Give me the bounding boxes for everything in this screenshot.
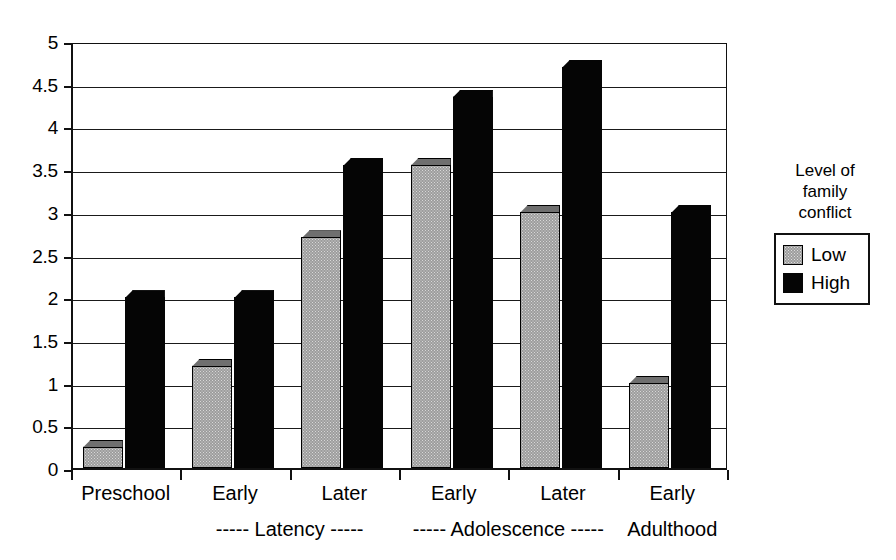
bar-high-early-3 xyxy=(453,97,493,468)
x-axis-tick-mark xyxy=(618,470,620,480)
gridline xyxy=(73,343,726,344)
bar-body xyxy=(234,297,274,468)
y-axis-tick-label: 4 xyxy=(0,118,58,137)
legend-box: Low High xyxy=(774,233,870,305)
bar-body xyxy=(343,165,383,468)
gridline xyxy=(73,129,726,130)
x-axis-tick-mark xyxy=(508,470,510,480)
bar-high-later-2 xyxy=(343,165,383,468)
bar-high-preschool-0 xyxy=(125,297,165,468)
bar-low-later-4 xyxy=(520,212,560,468)
gridline xyxy=(73,258,726,259)
bar-body xyxy=(629,383,669,468)
bar-low-early-3 xyxy=(411,165,451,468)
x-axis-group-label: ----- Latency ----- xyxy=(180,517,399,541)
x-axis-tick-mark xyxy=(180,470,182,480)
legend-title-line-3: conflict xyxy=(770,202,880,223)
bar-high-later-4 xyxy=(562,67,602,468)
bar-body xyxy=(125,297,165,468)
y-axis-tick-label: 3 xyxy=(0,204,58,223)
y-axis-tick-label: 0 xyxy=(0,460,58,479)
y-axis-tick-label: 4.5 xyxy=(0,76,58,95)
x-axis-group-label: Adulthood xyxy=(618,517,727,541)
bar-body xyxy=(453,97,493,468)
x-axis-category-label: Early xyxy=(618,481,727,505)
gridline xyxy=(73,87,726,88)
y-axis-label-group: 54.543.532.521.510.50 xyxy=(0,0,63,560)
bar-low-early-1 xyxy=(192,366,232,468)
legend: Level of family conflict Low High xyxy=(770,160,888,305)
x-axis-tick-mark xyxy=(290,470,292,480)
gridline xyxy=(73,386,726,387)
x-axis-tick-mark xyxy=(399,470,401,480)
bar-low-later-2 xyxy=(301,237,341,468)
bar-high-early-1 xyxy=(234,297,274,468)
bar-body xyxy=(562,67,602,468)
bar-body xyxy=(192,366,232,468)
y-axis-tick-label: 1 xyxy=(0,375,58,394)
bar-low-preschool-0 xyxy=(83,447,123,468)
bar-chart-figure: 54.543.532.521.510.50 PreschoolEarlyLate… xyxy=(0,0,896,560)
x-axis-category-label: Later xyxy=(290,481,399,505)
x-axis-tick-mark xyxy=(727,470,729,480)
y-axis-tick-label: 3.5 xyxy=(0,161,58,180)
bar-body xyxy=(411,165,451,468)
x-axis-category-label: Preschool xyxy=(71,481,180,505)
legend-title-line-1: Level of xyxy=(770,160,880,181)
legend-swatch-low-icon xyxy=(783,245,803,265)
legend-title: Level of family conflict xyxy=(770,160,880,223)
legend-item-high: High xyxy=(783,269,861,297)
bar-high-early-5 xyxy=(671,212,711,468)
x-axis-category-label: Later xyxy=(508,481,617,505)
legend-label-low: Low xyxy=(811,245,846,265)
x-axis-category-label: Early xyxy=(180,481,289,505)
y-axis-tick-label: 5 xyxy=(0,33,58,52)
bar-body xyxy=(671,212,711,468)
gridline xyxy=(73,215,726,216)
gridline xyxy=(73,172,726,173)
legend-item-low: Low xyxy=(783,241,861,269)
bar-body xyxy=(301,237,341,468)
legend-label-high: High xyxy=(811,273,850,293)
gridline xyxy=(73,428,726,429)
gridline xyxy=(73,300,726,301)
bar-body xyxy=(83,447,123,468)
legend-swatch-high-icon xyxy=(783,273,803,293)
bar-low-early-5 xyxy=(629,383,669,468)
legend-title-line-2: family xyxy=(770,181,880,202)
y-axis-tick-label: 1.5 xyxy=(0,332,58,351)
y-axis-tick-label: 2.5 xyxy=(0,247,58,266)
x-axis-tick-mark xyxy=(71,470,73,480)
bar-body xyxy=(520,212,560,468)
x-axis-category-label: Early xyxy=(399,481,508,505)
y-axis-tick-label: 0.5 xyxy=(0,417,58,436)
x-axis-group-label: ----- Adolescence ----- xyxy=(399,517,618,541)
y-axis-tick-label: 2 xyxy=(0,289,58,308)
plot-area xyxy=(71,43,727,470)
